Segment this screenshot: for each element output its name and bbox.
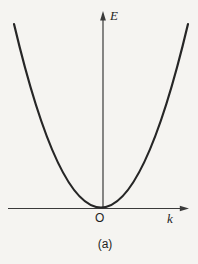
x-axis-arrowhead-icon xyxy=(180,206,189,211)
dispersion-figure: E k O (a) xyxy=(0,0,198,264)
y-axis-arrowhead-icon xyxy=(100,11,106,21)
dispersion-curve xyxy=(14,24,188,208)
subfigure-caption: (a) xyxy=(98,237,113,251)
y-axis-label: E xyxy=(109,8,118,23)
dispersion-plot: E k O (a) xyxy=(0,0,198,264)
origin-label: O xyxy=(95,211,104,225)
x-axis-label: k xyxy=(167,211,173,226)
